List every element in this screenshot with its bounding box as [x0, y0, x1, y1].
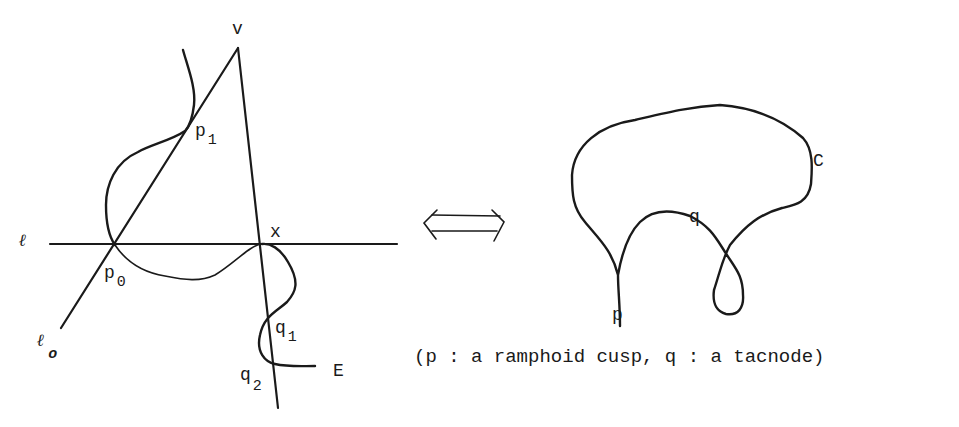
- label-E: E: [333, 361, 344, 381]
- left-figure: v p1 ℓ x p0 ℓo q1 q2 E: [19, 19, 397, 408]
- diagram-canvas: v p1 ℓ x p0 ℓo q1 q2 E C q p (p : a ramp…: [0, 0, 959, 427]
- label-q: q: [689, 207, 700, 227]
- curve-E-upper: [106, 50, 194, 245]
- caption: (p : a ramphoid cusp, q : a tacnode): [414, 346, 824, 368]
- label-p1: p1: [195, 121, 217, 149]
- label-C: C: [813, 151, 824, 171]
- right-figure: C q p (p : a ramphoid cusp, q : a tacnod…: [414, 105, 824, 368]
- label-x: x: [270, 222, 281, 242]
- label-p: p: [612, 305, 623, 325]
- line-ell-0: [61, 48, 238, 328]
- double-arrow-icon: [424, 210, 504, 241]
- label-v: v: [232, 19, 243, 39]
- label-q1: q1: [275, 318, 297, 346]
- label-q2: q2: [240, 365, 262, 395]
- label-p0: p0: [104, 263, 126, 291]
- label-ell: ℓ: [19, 230, 26, 250]
- curve-E-lower: [115, 244, 262, 280]
- label-ell-0: ℓo: [37, 330, 57, 363]
